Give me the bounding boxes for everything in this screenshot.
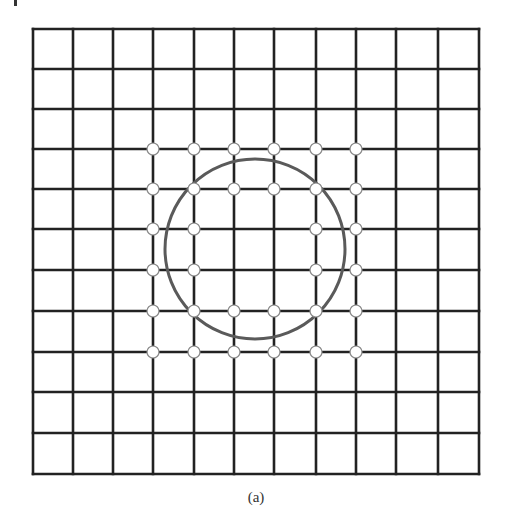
node-marker bbox=[228, 346, 240, 358]
node-marker bbox=[268, 305, 280, 317]
figure-caption: (a) bbox=[0, 489, 512, 506]
grid-lines bbox=[33, 29, 479, 474]
grid-diagram bbox=[0, 0, 512, 530]
node-marker bbox=[188, 346, 200, 358]
node-marker bbox=[310, 346, 322, 358]
node-marker bbox=[350, 183, 362, 195]
node-marker bbox=[188, 305, 200, 317]
boundary-nodes bbox=[147, 143, 362, 358]
corner-mark bbox=[14, 0, 17, 6]
node-marker bbox=[228, 143, 240, 155]
node-marker bbox=[228, 305, 240, 317]
node-marker bbox=[228, 183, 240, 195]
node-marker bbox=[350, 223, 362, 235]
node-marker bbox=[188, 143, 200, 155]
node-marker bbox=[310, 305, 322, 317]
corner-mark-line bbox=[14, 0, 17, 6]
node-marker bbox=[188, 264, 200, 276]
node-marker bbox=[310, 183, 322, 195]
node-marker bbox=[147, 346, 159, 358]
node-marker bbox=[350, 264, 362, 276]
node-marker bbox=[147, 183, 159, 195]
node-marker bbox=[350, 305, 362, 317]
node-marker bbox=[147, 264, 159, 276]
node-marker bbox=[147, 223, 159, 235]
node-marker bbox=[188, 183, 200, 195]
node-marker bbox=[350, 346, 362, 358]
node-marker bbox=[310, 264, 322, 276]
node-marker bbox=[310, 223, 322, 235]
node-marker bbox=[268, 183, 280, 195]
node-marker bbox=[188, 223, 200, 235]
node-marker bbox=[310, 143, 322, 155]
node-marker bbox=[268, 346, 280, 358]
node-marker bbox=[350, 143, 362, 155]
node-marker bbox=[147, 143, 159, 155]
node-marker bbox=[268, 143, 280, 155]
node-marker bbox=[147, 305, 159, 317]
